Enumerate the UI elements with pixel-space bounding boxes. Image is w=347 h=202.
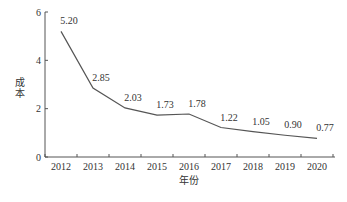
y-tick-label: 4: [36, 55, 41, 66]
data-labels: 5.202.852.031.731.781.221.050.900.77: [60, 15, 334, 133]
x-tick-label: 2015: [147, 161, 167, 172]
data-label: 5.20: [60, 15, 78, 26]
x-tick-label: 2016: [179, 161, 199, 172]
y-tick-label: 0: [36, 152, 41, 163]
data-label: 1.05: [252, 116, 270, 127]
line-chart: 0246 20122013201420152016201720182019202…: [0, 0, 347, 202]
x-tick-label: 2018: [243, 161, 263, 172]
x-tick-label: 2019: [275, 161, 295, 172]
x-tick-label: 2014: [115, 161, 135, 172]
y-tick-label: 2: [36, 103, 41, 114]
y-ticks: 0246: [36, 7, 48, 163]
y-axis-title: 成本: [15, 77, 25, 99]
axes: [45, 12, 335, 157]
data-label: 0.77: [316, 122, 334, 133]
data-label: 1.78: [188, 98, 206, 109]
x-tick-label: 2012: [51, 161, 71, 172]
y-tick-label: 6: [36, 7, 41, 18]
data-label: 0.90: [284, 119, 302, 130]
x-tick-label: 2017: [211, 161, 231, 172]
data-label: 2.85: [92, 72, 110, 83]
data-label: 1.22: [220, 112, 238, 123]
x-axis-title: 年份: [179, 174, 199, 186]
data-label: 1.73: [156, 99, 174, 110]
data-label: 2.03: [124, 92, 142, 103]
x-tick-label: 2013: [83, 161, 103, 172]
x-tick-label: 2020: [307, 161, 327, 172]
series-line: [61, 31, 317, 138]
